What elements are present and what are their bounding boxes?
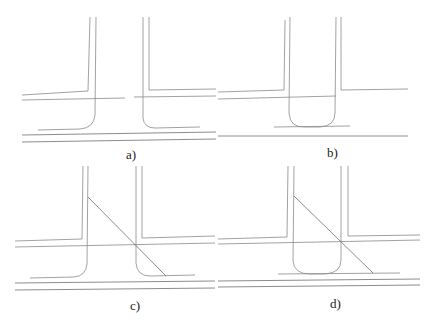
panel-c-label: c) [130, 298, 140, 314]
panel-a-label: a) [126, 147, 136, 163]
panel-a-drawing [22, 17, 216, 142]
panel-b-label: b) [327, 145, 338, 161]
panel-d-drawing [218, 166, 420, 287]
figure-canvas [0, 0, 433, 328]
panel-d-label: d) [330, 296, 341, 312]
panel-c-drawing [15, 166, 215, 290]
panel-b-drawing [218, 17, 408, 136]
